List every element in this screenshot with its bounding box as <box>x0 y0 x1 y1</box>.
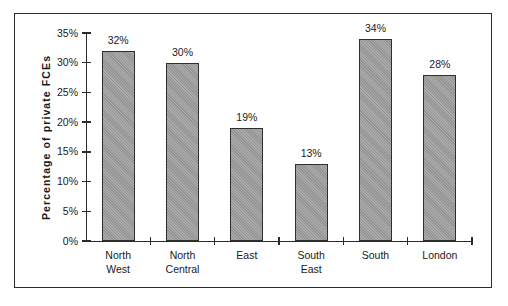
x-axis-tick <box>150 237 151 245</box>
x-axis-tick <box>343 237 344 245</box>
y-axis-tick <box>82 211 91 212</box>
y-axis-tick-label: 30% <box>48 57 78 68</box>
bar-value-label: 34% <box>346 23 406 34</box>
bar <box>230 128 263 241</box>
y-axis-tick-label: 5% <box>48 206 78 217</box>
y-axis-tick <box>82 151 91 152</box>
y-axis-tick <box>82 240 91 241</box>
x-axis-category-label: London <box>400 249 480 263</box>
x-axis-tick <box>471 237 472 245</box>
bar <box>295 164 328 241</box>
bar-value-label: 13% <box>281 148 341 159</box>
y-axis-tick <box>82 32 91 33</box>
y-axis-tick-label: 20% <box>48 117 78 128</box>
y-axis-tick <box>82 62 91 63</box>
y-axis-tick <box>82 92 91 93</box>
bar-value-label: 28% <box>410 59 470 70</box>
bar <box>102 51 135 241</box>
y-axis-tick <box>82 181 91 182</box>
bar-value-label: 19% <box>217 112 277 123</box>
y-axis-tick-label: 25% <box>48 87 78 98</box>
y-axis-tick <box>82 121 91 122</box>
bar <box>166 63 199 241</box>
bar-value-label: 30% <box>153 47 213 58</box>
x-axis-tick <box>278 237 279 245</box>
bar-value-label: 32% <box>88 35 148 46</box>
plot-area: Percentage of private FCEs 0%5%10%15%20%… <box>0 0 508 306</box>
y-axis-tick-label: 35% <box>48 28 78 39</box>
y-axis-tick-label: 0% <box>48 236 78 247</box>
x-axis-tick <box>214 237 215 245</box>
bar <box>359 39 392 241</box>
y-axis-tick-label: 15% <box>48 146 78 157</box>
chart-figure: Percentage of private FCEs 0%5%10%15%20%… <box>0 0 508 306</box>
x-axis-tick <box>407 237 408 245</box>
y-axis-tick-label: 10% <box>48 176 78 187</box>
bar <box>423 75 456 241</box>
